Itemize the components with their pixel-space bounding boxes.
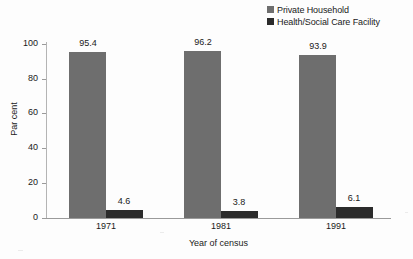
x-tick-label-1991: 1991 (299, 221, 373, 231)
y-tick-0 (42, 218, 46, 219)
legend-swatch-health-social-care-icon (267, 18, 274, 25)
y-tick-label-80: 80 (4, 74, 38, 83)
scan-artifact (405, 212, 408, 213)
bar-private-household-1971 (69, 52, 106, 218)
x-axis-line (46, 218, 391, 219)
legend-item-private-household: Private Household (267, 4, 413, 15)
y-axis-title: Par cent (9, 96, 19, 142)
bar-value-private-household-1971: 95.4 (63, 38, 113, 48)
bar-health-social-care-1991 (336, 207, 373, 218)
legend-label-health-social-care: Health/Social Care Facility (277, 17, 380, 27)
bar-value-health-social-care-1981: 3.8 (214, 197, 264, 207)
x-axis-title: Year of census (46, 238, 391, 248)
legend-swatch-private-household-icon (267, 6, 274, 13)
bar-health-social-care-1971 (106, 210, 143, 218)
scan-artifact (160, 232, 164, 233)
bar-health-social-care-1981 (221, 211, 258, 218)
y-tick-label-100: 100 (4, 39, 38, 48)
y-tick-label-20: 20 (4, 178, 38, 187)
bar-chart: Private Household Health/Social Care Fac… (0, 0, 413, 259)
bar-group-1971: 95.4 4.6 (69, 44, 143, 218)
plot-area: 95.4 4.6 96.2 3.8 93.9 6.1 (46, 44, 391, 218)
bar-group-1981: 96.2 3.8 (184, 44, 258, 218)
legend-label-private-household: Private Household (277, 5, 349, 15)
x-tick-label-1971: 1971 (69, 221, 143, 231)
y-tick-label-0: 0 (4, 213, 38, 222)
scan-artifact (18, 250, 23, 251)
x-tick-label-1981: 1981 (184, 221, 258, 231)
bar-value-health-social-care-1971: 4.6 (99, 196, 149, 206)
bar-value-health-social-care-1991: 6.1 (329, 193, 379, 203)
bar-value-private-household-1981: 96.2 (178, 37, 228, 47)
legend-item-health-social-care: Health/Social Care Facility (267, 16, 413, 27)
bar-group-1991: 93.9 6.1 (299, 44, 373, 218)
chart-legend: Private Household Health/Social Care Fac… (267, 4, 413, 28)
bar-value-private-household-1991: 93.9 (293, 41, 343, 51)
bar-private-household-1981 (184, 51, 221, 218)
y-tick-label-40: 40 (4, 143, 38, 152)
